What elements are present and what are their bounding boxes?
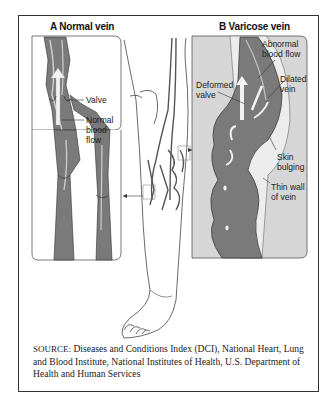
label-dilated-vein-line-2: vein (280, 84, 306, 94)
label-deformed-valve: Deformed valve (196, 80, 233, 100)
panel-b-title: B Varicose vein (219, 21, 290, 32)
source-text: Diseases and Conditions Index (DCI), Nat… (33, 343, 304, 379)
label-abnormal-flow-line-1: Abnormal (262, 39, 300, 49)
label-thin-wall-line-2: of vein (271, 192, 305, 202)
label-abnormal-flow-line-2: blood flow (262, 49, 300, 59)
label-abnormal-flow: Abnormal blood flow (262, 39, 300, 59)
leg-veins (148, 38, 184, 210)
source-prefix: SOURCE: (33, 344, 71, 354)
label-thin-wall: Thin wall of vein (271, 182, 305, 202)
label-normal-flow: Normal blood flow (86, 115, 113, 145)
label-skin-bulging-line-2: bulging (277, 162, 304, 172)
varicose-vein-panel (192, 36, 307, 258)
label-normal-flow-line-2: blood (86, 125, 113, 135)
label-deformed-valve-line-1: Deformed (196, 80, 233, 90)
label-skin-bulging: Skin bulging (277, 152, 304, 172)
label-dilated-vein: Dilated vein (280, 74, 306, 94)
label-normal-flow-line-1: Normal (86, 115, 113, 125)
label-skin-bulging-line-1: Skin (277, 152, 304, 162)
source-caption: SOURCE: Diseases and Conditions Index (D… (33, 343, 313, 381)
panel-a-title: A Normal vein (50, 21, 114, 32)
label-deformed-valve-line-2: valve (196, 90, 233, 100)
label-normal-flow-line-3: flow (86, 135, 113, 145)
label-dilated-vein-line-1: Dilated (280, 74, 306, 84)
label-thin-wall-line-1: Thin wall (271, 182, 305, 192)
normal-vein-lower (32, 130, 121, 260)
label-valve: Valve (86, 95, 107, 105)
